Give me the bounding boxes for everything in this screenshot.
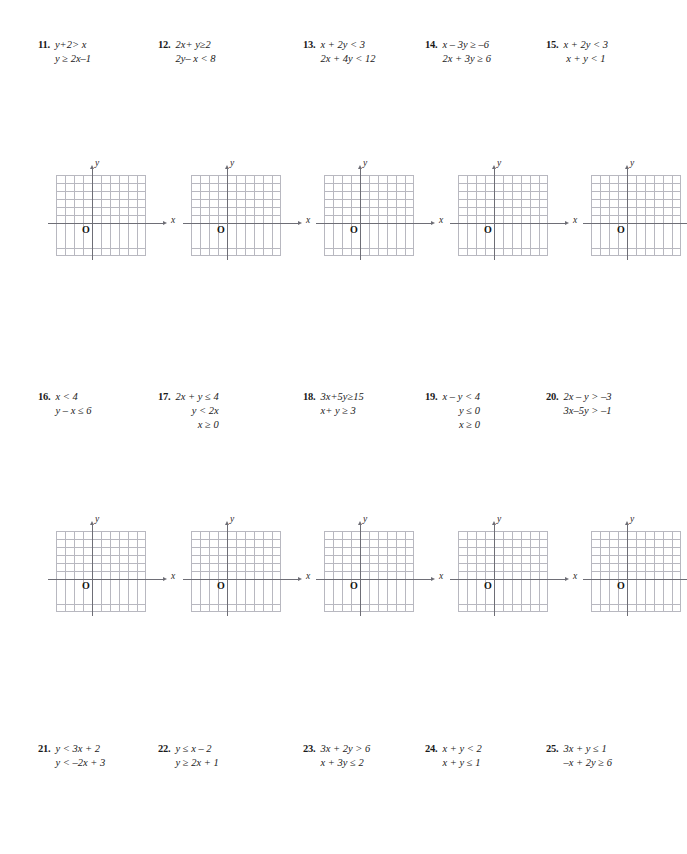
y-axis-label: y	[630, 514, 634, 524]
coordinate-grid[interactable]	[458, 531, 548, 612]
problem-number: 21.	[38, 742, 56, 754]
y-axis-label: y	[363, 158, 367, 168]
y-axis-label: y	[630, 158, 634, 168]
y-axis-line	[627, 167, 628, 260]
graph-for-problem-18[interactable]: xyO	[316, 516, 434, 616]
inequality: 2y– x < 8	[176, 52, 216, 66]
x-axis-label: x	[439, 571, 443, 581]
graph-for-problem-13[interactable]: xyO	[316, 160, 434, 260]
problem-24: 24.x + y < 2x + y ≤ 1	[425, 742, 482, 770]
graph-for-problem-15[interactable]: xyO	[583, 160, 687, 260]
inequality-system: x < 4 y – x ≤ 6	[56, 390, 92, 418]
graph-for-problem-19[interactable]: xyO	[450, 516, 568, 616]
x-axis-label: x	[573, 571, 577, 581]
inequality: x – 3y ≥ –6	[443, 38, 491, 52]
x-axis-arrow-icon	[298, 221, 302, 225]
problem-number: 16.	[38, 390, 56, 402]
x-axis-line	[48, 579, 165, 580]
problem-number: 18.	[303, 390, 321, 402]
y-axis-line	[227, 523, 228, 616]
inequality-system: y+2> xy ≥ 2x–1	[55, 38, 91, 66]
coordinate-grid[interactable]	[56, 175, 146, 256]
problem-number: 14.	[425, 38, 443, 50]
x-axis-label: x	[171, 215, 175, 225]
graph-for-problem-17[interactable]: xyO	[183, 516, 301, 616]
problem-25: 25.3x + y ≤ 1 –x + 2y ≥ 6	[546, 742, 612, 770]
y-axis-arrow-icon	[225, 165, 229, 169]
inequality: 3x+5y≥15	[321, 390, 364, 404]
x-axis-arrow-icon	[431, 577, 435, 581]
problem-number: 13.	[303, 38, 321, 50]
y-axis-line	[360, 167, 361, 260]
coordinate-grid[interactable]	[56, 531, 146, 612]
origin-label: O	[617, 224, 625, 235]
worksheet-page: 11.y+2> xy ≥ 2x–112.2x+ y≥22y– x < 813.x…	[0, 0, 687, 854]
x-axis-line	[48, 223, 165, 224]
y-axis-line	[92, 167, 93, 260]
graph-for-problem-20[interactable]: xyO	[583, 516, 687, 616]
problem-19: 19.x – y < 4y ≤ 0x ≥ 0	[425, 390, 480, 432]
y-axis-label: y	[230, 158, 234, 168]
problem-20: 20.2x – y > –33x–5y > –1	[546, 390, 611, 418]
inequality: y < 2x	[176, 404, 219, 418]
graph-for-problem-11[interactable]: xyO	[48, 160, 166, 260]
coordinate-grid[interactable]	[591, 175, 681, 256]
x-axis-line	[450, 579, 567, 580]
problem-number: 15.	[546, 38, 564, 50]
problem-number: 12.	[158, 38, 176, 50]
inequality: y ≤ x – 2	[176, 742, 219, 756]
x-axis-line	[183, 223, 300, 224]
inequality: 2x+ y≥2	[176, 38, 216, 52]
inequality: x + 2y < 3	[321, 38, 376, 52]
inequality: x – y < 4	[443, 390, 480, 404]
inequality: y ≤ 0	[443, 404, 480, 418]
problem-21: 21.y < 3x + 2 y < –2x + 3	[38, 742, 105, 770]
inequality: x + y ≤ 1	[443, 756, 482, 770]
problem-18: 18.3x+5y≥15x+ y ≥ 3	[303, 390, 364, 418]
y-axis-arrow-icon	[90, 521, 94, 525]
inequality: x + y < 2	[443, 742, 482, 756]
inequality-system: 3x+5y≥15x+ y ≥ 3	[321, 390, 364, 418]
inequality-system: x + 2y < 3x + y < 1	[564, 38, 609, 66]
graph-for-problem-16[interactable]: xyO	[48, 516, 166, 616]
inequality: x ≥ 0	[176, 418, 219, 432]
graph-for-problem-12[interactable]: xyO	[183, 160, 301, 260]
inequality: x + 2y < 3	[564, 38, 609, 52]
problem-22: 22.y ≤ x – 2 y ≥ 2x + 1	[158, 742, 219, 770]
x-axis-label: x	[306, 215, 310, 225]
problem-number: 24.	[425, 742, 443, 754]
origin-label: O	[82, 224, 90, 235]
coordinate-grid[interactable]	[191, 531, 281, 612]
x-axis-line	[450, 223, 567, 224]
inequality: 3x–5y > –1	[564, 404, 612, 418]
y-axis-arrow-icon	[492, 165, 496, 169]
inequality: y ≥ 2x–1	[55, 52, 91, 66]
inequality-system: y ≤ x – 2 y ≥ 2x + 1	[176, 742, 219, 770]
y-axis-label: y	[363, 514, 367, 524]
x-axis-label: x	[171, 571, 175, 581]
y-axis-label: y	[95, 514, 99, 524]
x-axis-arrow-icon	[565, 577, 569, 581]
graph-row: xyOxyOxyOxyOxyO	[0, 160, 687, 260]
graph-for-problem-14[interactable]: xyO	[450, 160, 568, 260]
coordinate-grid[interactable]	[324, 531, 414, 612]
y-axis-arrow-icon	[358, 521, 362, 525]
y-axis-arrow-icon	[90, 165, 94, 169]
x-axis-label: x	[306, 571, 310, 581]
inequality: x+ y ≥ 3	[321, 404, 364, 418]
y-axis-label: y	[497, 158, 501, 168]
coordinate-grid[interactable]	[191, 175, 281, 256]
inequality-system: 3x + y ≤ 1 –x + 2y ≥ 6	[564, 742, 612, 770]
inequality-system: x + y < 2x + y ≤ 1	[443, 742, 482, 770]
coordinate-grid[interactable]	[591, 531, 681, 612]
problem-14: 14.x – 3y ≥ –62x + 3y ≥ 6	[425, 38, 491, 66]
problem-number: 23.	[303, 742, 321, 754]
problem-11: 11.y+2> xy ≥ 2x–1	[38, 38, 91, 66]
problem-13: 13.x + 2y < 32x + 4y < 12	[303, 38, 376, 66]
inequality: x + 3y ≤ 2	[321, 756, 371, 770]
coordinate-grid[interactable]	[324, 175, 414, 256]
x-axis-arrow-icon	[431, 221, 435, 225]
inequality: y+2> x	[55, 38, 91, 52]
coordinate-grid[interactable]	[458, 175, 548, 256]
y-axis-label: y	[230, 514, 234, 524]
